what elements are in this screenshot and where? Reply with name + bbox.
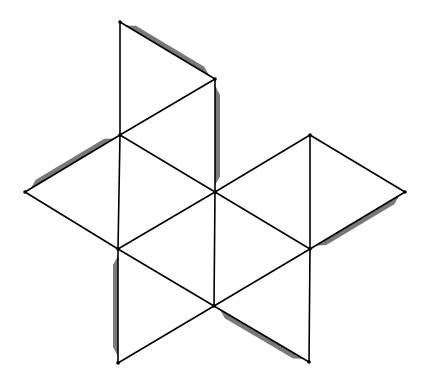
vertex-d <box>23 190 27 194</box>
edge-il <box>309 249 310 362</box>
vertex-g <box>403 190 407 194</box>
edge-ej <box>214 192 215 306</box>
edge-he <box>118 192 215 249</box>
edge-ei <box>215 192 310 249</box>
vertex-a <box>118 20 122 24</box>
edge-jl <box>214 306 309 362</box>
edge-ch <box>118 135 120 249</box>
vertex-i <box>308 247 312 251</box>
vertex-k <box>116 361 120 365</box>
edge-bc <box>120 79 215 135</box>
edge-dh <box>25 192 118 249</box>
vertex-points <box>23 20 407 365</box>
edge-ef <box>215 135 310 192</box>
octahedron-net-diagram <box>0 0 430 390</box>
edge-gi <box>310 192 405 249</box>
edge-ij <box>214 249 310 306</box>
vertex-h <box>116 247 120 251</box>
edge-hj <box>118 249 214 306</box>
edge-cd <box>25 135 120 192</box>
vertex-e <box>213 190 217 194</box>
edge-fg <box>310 135 405 192</box>
vertex-b <box>213 77 217 81</box>
vertex-f <box>308 133 312 137</box>
vertex-c <box>118 133 122 137</box>
edge-ab <box>120 22 215 79</box>
vertex-j <box>212 304 216 308</box>
edge-kj <box>118 306 214 363</box>
edge-ce <box>120 135 215 192</box>
vertex-l <box>307 360 311 364</box>
